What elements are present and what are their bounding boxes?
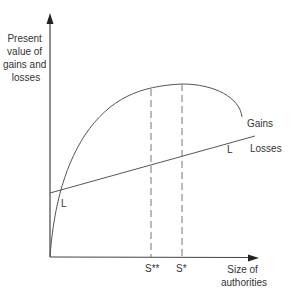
y-axis-label: Present value of gains and losses	[3, 33, 49, 83]
intersection-label-right: L	[227, 144, 233, 155]
gains-label: Gains	[247, 118, 273, 129]
x-axis-arrow-icon	[248, 255, 259, 262]
x-axis	[50, 257, 250, 258]
losses-line	[50, 136, 255, 193]
gains-losses-diagram: Present value of gains and losses Size o…	[0, 0, 291, 294]
intersection-label-left: L	[61, 198, 67, 209]
s-double-star-label: S**	[145, 263, 160, 274]
y-axis-arrow-icon	[47, 13, 54, 24]
gains-curve	[50, 84, 242, 257]
x-axis-label: Size of authorities	[221, 264, 267, 288]
losses-label: Losses	[250, 143, 282, 154]
s-star-label: S*	[176, 263, 187, 274]
